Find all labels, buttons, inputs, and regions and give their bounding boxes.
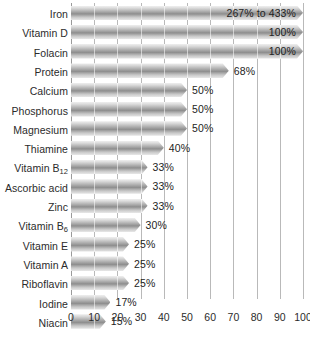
bar (71, 141, 164, 156)
category-label: Ascorbic acid (0, 183, 68, 194)
category-label: Riboflavin (0, 279, 68, 290)
bar-row: 33% (71, 157, 303, 176)
bar-fill (71, 218, 141, 233)
bar-row: 50% (71, 80, 303, 99)
x-axis-tick-labels: 0102030405060708090100 (71, 312, 303, 328)
bar-fill (71, 102, 187, 117)
bar-value-label: 100% (269, 46, 296, 57)
bar (71, 63, 229, 78)
bar-fill (71, 160, 148, 175)
bar-rows: 267% to 433%100%100%68%50%50%50%40%33%33… (71, 3, 303, 299)
gridline-100 (303, 3, 304, 299)
bar (71, 295, 110, 310)
x-tick-label: 80 (251, 312, 263, 323)
category-label: Vitamin D (0, 28, 68, 39)
bar-value-label: 25% (129, 258, 155, 269)
category-label: Folacin (0, 48, 68, 59)
bar-chart: 267% to 433%100%100%68%50%50%50%40%33%33… (0, 0, 310, 339)
bar (71, 237, 129, 252)
x-tick-label: 70 (228, 312, 240, 323)
bar-fill (71, 83, 187, 98)
bar-fill (71, 295, 110, 310)
bar-fill (71, 121, 187, 136)
bar-row: 17% (71, 293, 303, 312)
bar-fill (71, 63, 229, 78)
bar-value-label: 30% (141, 220, 167, 231)
bar (71, 179, 148, 194)
bar-row: 50% (71, 119, 303, 138)
category-label: Vitamin B12 (0, 163, 68, 174)
bar (71, 121, 187, 136)
x-tick-label: 40 (158, 312, 170, 323)
bar-fill (71, 199, 148, 214)
bar (71, 276, 129, 291)
x-tick-label: 60 (204, 312, 216, 323)
bar-value-label: 267% to 433% (226, 7, 296, 18)
category-axis-labels: IronVitamin DFolacinProteinCalciumPhosph… (0, 3, 68, 299)
x-tick-label: 50 (181, 312, 193, 323)
category-label: Thiamine (0, 144, 68, 155)
bar-row: 25% (71, 273, 303, 292)
category-label: Vitamin B6 (0, 221, 68, 232)
bar-row: 267% to 433% (71, 3, 303, 22)
bar-value-label: 40% (164, 142, 190, 153)
category-label: Protein (0, 67, 68, 78)
bar-value-label: 50% (187, 123, 213, 134)
x-tick-label: 90 (274, 312, 286, 323)
x-tick-label: 20 (112, 312, 124, 323)
category-label: Iodine (0, 299, 68, 310)
bar-value-label: 25% (129, 239, 155, 250)
bar-row: 33% (71, 177, 303, 196)
bar-value-label: 50% (187, 104, 213, 115)
bar-row: 100% (71, 22, 303, 41)
x-tick-label: 0 (68, 312, 74, 323)
plot-area: 267% to 433%100%100%68%50%50%50%40%33%33… (71, 3, 303, 299)
x-tick-label: 100 (294, 312, 310, 323)
bar-value-label: 33% (148, 181, 174, 192)
bar-fill (71, 276, 129, 291)
bar-row: 68% (71, 61, 303, 80)
bar-value-label: 50% (187, 85, 213, 96)
bar (71, 160, 148, 175)
bar-fill (71, 179, 148, 194)
category-label: Vitamin A (0, 260, 68, 271)
category-label: Phosphorus (0, 106, 68, 117)
bar-fill (71, 237, 129, 252)
category-label: Vitamin E (0, 241, 68, 252)
bar-value-label: 25% (129, 278, 155, 289)
bar-row: 50% (71, 100, 303, 119)
category-label: Iron (0, 9, 68, 20)
bar (71, 102, 187, 117)
bar-row: 25% (71, 254, 303, 273)
bar-row: 33% (71, 196, 303, 215)
bar-row: 40% (71, 138, 303, 157)
category-label: Magnesium (0, 125, 68, 136)
category-label: Calcium (0, 86, 68, 97)
bar (71, 199, 148, 214)
bar-row: 100% (71, 42, 303, 61)
bar-value-label: 68% (229, 65, 255, 76)
bar-fill (71, 256, 129, 271)
bar-value-label: 33% (148, 162, 174, 173)
bar-value-label: 100% (269, 27, 296, 38)
bar-value-label: 33% (148, 200, 174, 211)
category-label: Zinc (0, 202, 68, 213)
bar-row: 25% (71, 235, 303, 254)
bar-value-label: 17% (110, 297, 136, 308)
bar (71, 256, 129, 271)
bar-fill (71, 141, 164, 156)
category-label: Niacin (0, 318, 68, 329)
x-tick-label: 30 (135, 312, 147, 323)
bar (71, 218, 141, 233)
x-tick-label: 10 (88, 312, 100, 323)
bar-row: 30% (71, 215, 303, 234)
bar (71, 83, 187, 98)
